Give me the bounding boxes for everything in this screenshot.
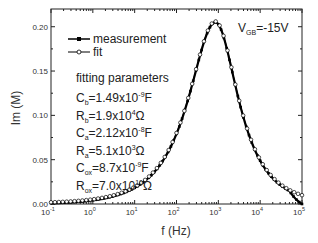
fit-marker xyxy=(241,114,245,118)
measurement-marker xyxy=(295,198,298,201)
filled-square-marker-icon xyxy=(77,37,81,41)
fit-marker xyxy=(261,162,265,166)
y-tick-label: 0.15 xyxy=(32,67,48,76)
fit-marker xyxy=(49,201,53,205)
fit-marker xyxy=(179,121,183,125)
annotation-sub: GB xyxy=(246,29,256,36)
legend-markers xyxy=(68,37,90,54)
fit-marker xyxy=(77,199,81,203)
annotation-vgb: VGB=-15V xyxy=(238,21,289,36)
annotation-rest: =-15V xyxy=(256,21,288,35)
fit-marker xyxy=(234,83,238,87)
fit-marker xyxy=(253,147,257,151)
legend-item-fit: fit xyxy=(93,46,102,58)
fit-marker xyxy=(69,200,73,204)
fit-marker xyxy=(163,155,167,159)
fit-marker xyxy=(277,181,281,185)
x-tick-label: 103 xyxy=(209,206,221,217)
open-circle-marker-icon xyxy=(77,50,81,54)
fit-marker xyxy=(257,156,261,160)
fit-marker xyxy=(273,177,277,181)
legend-label: measurement xyxy=(93,32,166,46)
fit-marker xyxy=(265,168,269,172)
fit-marker xyxy=(202,40,206,44)
x-tick-label: 104 xyxy=(251,206,263,217)
measurement-marker xyxy=(301,203,304,206)
fitting-parameter: Rox=7.0x1010Ω xyxy=(76,177,152,197)
fit-marker xyxy=(237,99,241,103)
fit-marker xyxy=(198,53,202,57)
y-tick-label: 0.20 xyxy=(32,23,48,32)
fit-marker xyxy=(57,200,61,204)
y-tick-label: 0.05 xyxy=(32,156,48,165)
fit-marker xyxy=(100,196,104,200)
fit-marker xyxy=(171,140,175,144)
legend-label: fit xyxy=(93,45,102,59)
fit-marker xyxy=(167,148,171,152)
fit-marker xyxy=(151,171,155,175)
fit-marker xyxy=(186,96,190,100)
y-tick-label: 0.10 xyxy=(32,111,48,120)
fit-marker xyxy=(269,173,273,177)
fit-marker xyxy=(206,29,210,33)
legend-item-measurement: measurement xyxy=(93,33,166,45)
y-axis-label: Im (M) xyxy=(9,91,23,126)
fit-marker xyxy=(65,200,69,204)
fit-marker xyxy=(155,166,159,170)
fit-marker xyxy=(210,22,214,26)
fit-marker xyxy=(84,198,88,202)
fit-marker xyxy=(96,197,100,201)
fit-marker xyxy=(81,199,85,203)
fit-marker xyxy=(73,199,77,203)
fitting-title: fitting parameters xyxy=(76,72,169,84)
fit-marker xyxy=(288,189,292,193)
fit-marker xyxy=(194,67,198,71)
fit-marker xyxy=(175,131,179,135)
fit-marker xyxy=(296,192,300,196)
fit-marker xyxy=(218,24,222,28)
fitting-title-text: fitting parameters xyxy=(76,71,169,85)
fit-marker xyxy=(230,66,234,70)
x-tick-label: 100 xyxy=(84,206,96,217)
fit-marker xyxy=(214,20,218,24)
fit-marker xyxy=(53,200,57,204)
measurement-marker xyxy=(292,195,295,198)
fit-marker xyxy=(183,109,187,113)
fit-marker xyxy=(292,190,296,194)
fit-marker xyxy=(61,200,65,204)
fit-marker xyxy=(281,184,285,188)
y-tick-labels: 0.000.050.100.150.20 xyxy=(32,23,48,209)
x-tick-label: 101 xyxy=(126,206,138,217)
measurement-marker xyxy=(298,201,301,204)
fit-marker xyxy=(249,138,253,142)
fit-marker xyxy=(222,34,226,38)
x-tick-labels: 10-1100101102103104105 xyxy=(41,206,305,217)
fit-marker xyxy=(190,82,194,86)
fit-marker xyxy=(226,49,230,53)
fit-marker xyxy=(88,198,92,202)
x-tick-label: 105 xyxy=(293,206,305,217)
fit-marker xyxy=(159,161,163,165)
x-axis-label: f (Hz) xyxy=(161,224,190,238)
fit-marker xyxy=(300,193,304,197)
x-tick-label: 10-1 xyxy=(41,206,55,217)
fit-marker xyxy=(285,186,289,190)
fit-marker xyxy=(92,197,96,201)
annotation-text: V xyxy=(238,21,246,35)
fit-marker xyxy=(245,127,249,131)
x-tick-label: 102 xyxy=(168,206,180,217)
